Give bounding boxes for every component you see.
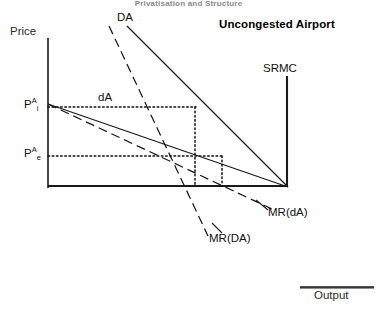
y-axis-label-price: Price	[10, 26, 36, 38]
price-subscript-internal: i	[37, 104, 39, 113]
curve-label-mr-da-perceived: MR(dA)	[268, 207, 308, 219]
chart-title: Uncongested Airport	[219, 19, 335, 31]
x-axis-label-output: Output	[314, 290, 349, 302]
price-base-efficient: P	[24, 147, 32, 159]
economics-diagram-figure: Privatisation and Structure	[0, 0, 377, 316]
price-base-internal: P	[24, 98, 32, 110]
curve-DA	[127, 26, 288, 187]
price-level-label-efficient: PAe	[24, 148, 41, 160]
price-level-label-internal: PAi	[24, 99, 38, 111]
curve-dA	[48, 104, 288, 187]
curve-label-DA: DA	[117, 12, 133, 24]
diagram-canvas	[0, 0, 377, 316]
curve-label-dA: dA	[98, 92, 112, 104]
curve-label-srmc: SRMC	[263, 63, 297, 75]
price-subscript-efficient: e	[37, 153, 41, 162]
leader-line-mr-da-small	[256, 200, 268, 210]
curve-label-mr-da-aggregate: MR(DA)	[209, 233, 251, 245]
